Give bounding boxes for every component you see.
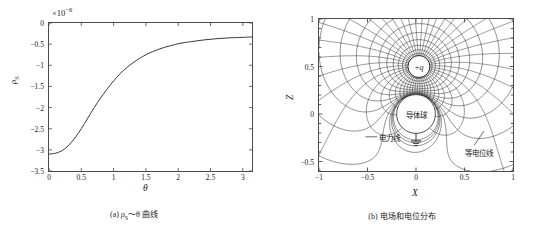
ground-symbol-icon (411, 133, 421, 145)
field-line-callout-label: 电力线 (379, 132, 400, 143)
y-tick-label: 0 (310, 110, 314, 119)
panel-a-y-axis-label: ρS (8, 76, 20, 84)
panel-b-y-axis-label: Z (285, 95, 295, 100)
conductor-sphere-label: 导体球 (406, 109, 427, 120)
x-tick-label: 1.5 (141, 173, 150, 182)
x-tick-label: 0.5 (460, 173, 469, 182)
panel-a-caption: (a) ρS～θ 曲线 (0, 208, 268, 221)
panel-b-caption: (b) 电场和电位分布 (268, 210, 536, 221)
y-tick-label: −1 (36, 61, 44, 70)
panel-a-plot-area (48, 22, 253, 172)
x-tick-label: 0.5 (77, 173, 86, 182)
y-tick-label: −2 (36, 103, 44, 112)
x-tick-label: 0 (47, 173, 51, 182)
x-tick-label: 3 (241, 173, 245, 182)
y-axis-exponent-label: ×10−6 (52, 6, 72, 18)
y-tick-label: 1 (310, 15, 314, 24)
exponent-mantissa: ×10 (52, 8, 65, 18)
panel-a-svg (49, 23, 252, 171)
y-tick-label: −3.5 (30, 167, 44, 176)
y-tick-label: −0.5 (30, 40, 44, 49)
rho-s-theta-curve (49, 37, 252, 154)
x-tick-label: 1 (112, 173, 116, 182)
y-tick-label: −2.5 (30, 124, 44, 133)
caption-a-prefix: (a) (110, 210, 121, 219)
caption-a-rest: ～θ 曲线 (128, 210, 158, 219)
equipotential-callout-label: 等电位线 (465, 147, 493, 158)
x-tick-label: 1 (511, 173, 515, 182)
exponent-power: −6 (65, 6, 72, 13)
panel-b-field-distribution: Z X 10.50−0.5 −1−0.500.51 +q 导体球 电力线 等电位… (268, 0, 536, 235)
figure-container: ×10−6 ρS θ 0−0.5−1−1.5−2−2.5−3−3.5 00.51… (0, 0, 536, 235)
x-tick-label: 2 (176, 173, 180, 182)
y-label-symbol: ρ (8, 80, 18, 84)
panel-a-x-axis-label: θ (143, 183, 148, 193)
panel-a-rho-theta-curve: ×10−6 ρS θ 0−0.5−1−1.5−2−2.5−3−3.5 00.51… (0, 0, 268, 235)
panel-a-tick-marks (49, 23, 252, 171)
y-tick-label: 0 (40, 19, 44, 28)
y-tick-label: −3 (36, 145, 44, 154)
y-tick-label: −0.5 (300, 157, 314, 166)
panel-b-x-axis-label: X (412, 188, 418, 198)
y-tick-label: −1.5 (30, 82, 44, 91)
point-charge-label: +q (414, 62, 423, 71)
x-tick-label: −0.5 (361, 173, 375, 182)
x-tick-label: 0 (414, 173, 418, 182)
y-tick-label: 0.5 (305, 62, 314, 71)
y-label-subscript: S (13, 76, 20, 80)
x-tick-label: 2.5 (206, 173, 215, 182)
x-tick-label: −1 (315, 173, 323, 182)
